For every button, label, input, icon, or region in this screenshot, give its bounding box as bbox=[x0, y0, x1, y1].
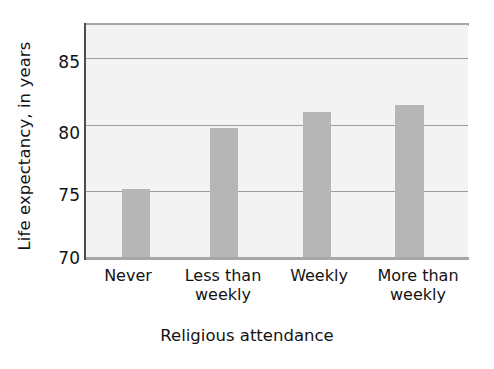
y-tick-70: 70 bbox=[46, 250, 80, 267]
bar-never bbox=[122, 189, 150, 258]
y-tick-85: 85 bbox=[46, 54, 80, 71]
x-axis-spine bbox=[86, 257, 469, 260]
y-tick-75: 75 bbox=[46, 187, 80, 204]
x-tick-weekly: Weekly bbox=[274, 266, 364, 285]
x-axis-title: Religious attendance bbox=[0, 326, 494, 345]
x-tick-less-than-weekly: Less than weekly bbox=[170, 266, 276, 304]
x-tick-never-line1: Never bbox=[88, 266, 168, 285]
x-tick-more-than-weekly: More than weekly bbox=[362, 266, 474, 304]
plot-area bbox=[86, 25, 468, 258]
bar-chart-figure: Life expectancy, in years 85 80 75 70 Ne… bbox=[0, 0, 494, 369]
x-tick-more-than-weekly-line2: weekly bbox=[362, 285, 474, 304]
x-tick-weekly-line1: Weekly bbox=[274, 266, 364, 285]
x-tick-never: Never bbox=[88, 266, 168, 285]
gridline-85 bbox=[86, 58, 468, 59]
y-tick-80: 80 bbox=[46, 125, 80, 142]
x-tick-less-than-weekly-line1: Less than bbox=[170, 266, 276, 285]
bar-more-than-weekly bbox=[395, 105, 424, 258]
y-axis-tick-labels: 85 80 75 70 bbox=[44, 0, 80, 369]
x-tick-less-than-weekly-line2: weekly bbox=[170, 285, 276, 304]
x-tick-more-than-weekly-line1: More than bbox=[362, 266, 474, 285]
bar-less-than-weekly bbox=[210, 128, 238, 258]
bar-weekly bbox=[303, 112, 331, 258]
y-axis-title: Life expectancy, in years bbox=[15, 26, 39, 266]
